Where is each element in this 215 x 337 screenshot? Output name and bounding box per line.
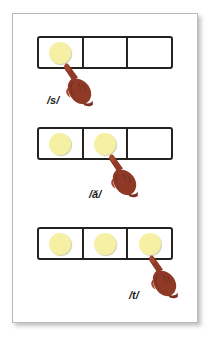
counter-chip[interactable] <box>49 233 71 255</box>
phoneme-label: /t/ <box>129 289 139 301</box>
counter-chip[interactable] <box>49 133 71 155</box>
counter-chip[interactable] <box>49 42 71 64</box>
phoneme-segmentation-worksheet: /s/ <box>12 13 198 323</box>
sound-box-cell[interactable] <box>39 229 84 258</box>
phoneme-label: /s/ <box>47 94 59 106</box>
counter-chip-placeholder <box>94 42 116 64</box>
sound-box-cell[interactable] <box>84 229 129 258</box>
counter-chip-placeholder <box>139 42 161 64</box>
sound-box-cell[interactable] <box>39 129 84 158</box>
sound-box-cell[interactable] <box>128 38 171 67</box>
counter-chip-placeholder <box>139 133 161 155</box>
counter-chip[interactable] <box>94 133 116 155</box>
counter-chip[interactable] <box>139 233 161 255</box>
sound-boxes-row-1[interactable] <box>37 36 173 69</box>
counter-chip[interactable] <box>94 233 116 255</box>
phoneme-label: /ă/ <box>89 188 101 200</box>
pointing-hand-icon <box>104 153 138 199</box>
screenshot-canvas: /s/ <box>0 0 215 337</box>
pointing-hand-icon <box>144 254 178 300</box>
pointing-hand-icon <box>59 62 93 108</box>
